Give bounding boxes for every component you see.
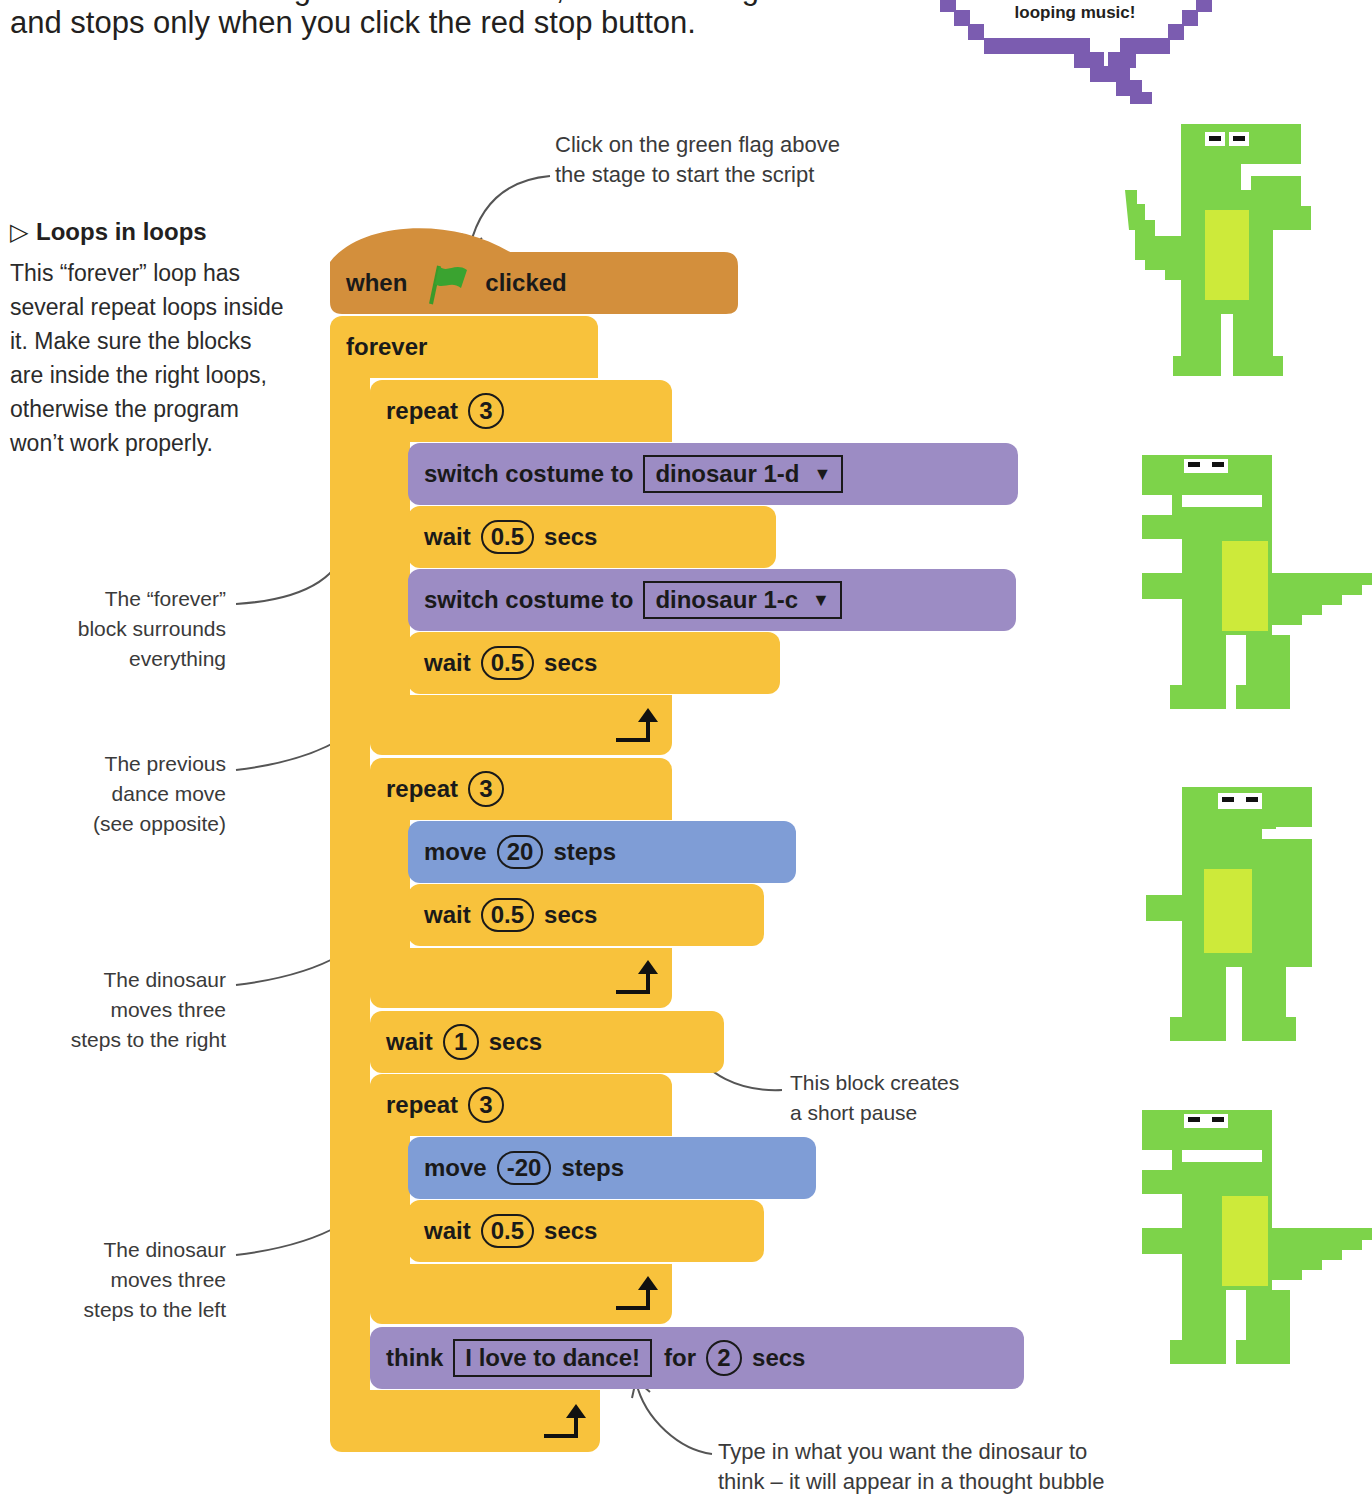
loop-arrow-icon: [614, 958, 662, 998]
loop-arrow-icon: [614, 706, 662, 746]
switch-costume-block-1[interactable]: switch costume to dinosaur 1-d▼: [408, 443, 1018, 505]
dinosaur-sprite-icon: [1146, 785, 1316, 1047]
repeat-3-count[interactable]: 3: [468, 1087, 504, 1123]
dinosaur-sprite-icon: [1125, 120, 1315, 382]
think-seconds-value[interactable]: 2: [706, 1340, 742, 1376]
wait-1-value[interactable]: 0.5: [481, 520, 534, 554]
repeat-1-content: repeat 3: [370, 380, 672, 442]
loop-arrow-icon: [542, 1402, 590, 1442]
dropdown-caret-icon: ▼: [812, 590, 830, 611]
forever-block-arm: [330, 370, 370, 1400]
move-2-value[interactable]: -20: [497, 1151, 552, 1185]
repeat-1-count[interactable]: 3: [468, 393, 504, 429]
think-block[interactable]: think I love to dance! for 2 secs: [370, 1327, 1024, 1389]
wait-block-4[interactable]: wait 1 secs: [370, 1011, 724, 1073]
dropdown-caret-icon: ▼: [813, 464, 831, 485]
wait-block-3[interactable]: wait 0.5 secs: [408, 884, 764, 946]
wait-block-2[interactable]: wait 0.5 secs: [408, 632, 780, 694]
repeat-2-count[interactable]: 3: [468, 771, 504, 807]
think-text-input[interactable]: I love to dance!: [453, 1339, 652, 1377]
repeat-3-content: repeat 3: [370, 1074, 672, 1136]
wait-3-value[interactable]: 0.5: [481, 898, 534, 932]
switch-costume-block-2[interactable]: switch costume to dinosaur 1-c▼: [408, 569, 1016, 631]
green-flag-icon: [425, 260, 471, 306]
move-block-1[interactable]: move 20 steps: [408, 821, 796, 883]
wait-2-value[interactable]: 0.5: [481, 646, 534, 680]
loop-arrow-icon: [614, 1274, 662, 1314]
dinosaur-sprite-icon: [1142, 1108, 1372, 1370]
costume-dropdown-1[interactable]: dinosaur 1-d▼: [643, 455, 843, 493]
move-block-2[interactable]: move -20 steps: [408, 1137, 816, 1199]
wait-4-value[interactable]: 1: [443, 1024, 479, 1060]
costume-dropdown-2[interactable]: dinosaur 1-c▼: [643, 581, 842, 619]
repeat-block-2-arm: [370, 818, 410, 958]
repeat-block-1-arm: [370, 440, 410, 702]
wait-block-5[interactable]: wait 0.5 secs: [408, 1200, 764, 1262]
move-1-value[interactable]: 20: [497, 835, 544, 869]
repeat-2-content: repeat 3: [370, 758, 672, 820]
wait-block-1[interactable]: wait 0.5 secs: [408, 506, 776, 568]
repeat-block-3-arm: [370, 1134, 410, 1274]
when-flag-clicked-block[interactable]: when clicked: [330, 252, 738, 314]
wait-5-value[interactable]: 0.5: [481, 1214, 534, 1248]
forever-label: forever: [330, 316, 598, 378]
dinosaur-sprite-icon: [1142, 453, 1372, 715]
